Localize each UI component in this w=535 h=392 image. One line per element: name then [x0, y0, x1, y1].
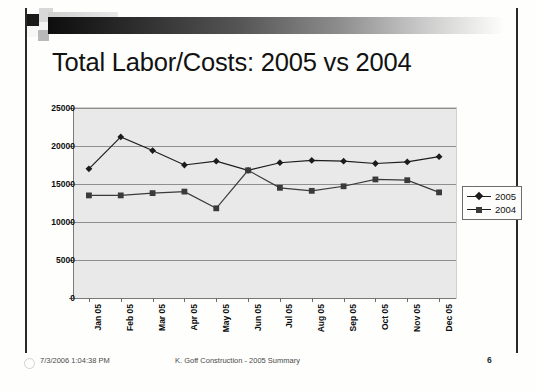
footer-timestamp: 7/3/2006 1:04:38 PM — [40, 356, 110, 365]
x-axis-tick — [344, 298, 345, 302]
legend-item-2004[interactable]: 2004 — [466, 203, 516, 216]
data-point-2005-Nov 05 — [404, 159, 411, 166]
x-axis-tick-label: Jan 05 — [93, 304, 103, 330]
x-axis-tick — [184, 298, 185, 302]
square-marker-icon — [466, 203, 492, 216]
y-axis-tick-label: 20000 — [51, 141, 75, 151]
data-point-2005-Sep 05 — [340, 158, 347, 165]
x-axis-tick — [439, 298, 440, 302]
data-point-2004-Jul 05 — [277, 185, 283, 191]
left-border-rule — [25, 8, 27, 353]
legend-label-2004: 2004 — [492, 204, 516, 215]
x-axis-tick-label: Mar 05 — [157, 304, 167, 331]
data-point-2004-Apr 05 — [182, 189, 188, 195]
x-axis-tick-label: Sep 05 — [348, 304, 358, 331]
data-point-2004-Mar 05 — [150, 190, 156, 196]
x-axis-tick-label: Nov 05 — [412, 304, 422, 332]
data-point-2004-Jan 05 — [86, 193, 92, 199]
x-axis-tick — [407, 298, 408, 302]
x-axis-tick-label: Jun 05 — [253, 304, 263, 331]
footer-page-number: 6 — [487, 355, 492, 365]
slide-canvas: Total Labor/Costs: 2005 vs 2004 05000100… — [0, 0, 535, 392]
data-point-2004-Aug 05 — [309, 188, 315, 194]
data-point-2005-Aug 05 — [308, 157, 315, 164]
x-axis-tick — [375, 298, 376, 302]
data-point-2004-May 05 — [213, 205, 219, 211]
data-point-2005-Jul 05 — [277, 159, 284, 166]
y-axis-tick-label: 25000 — [51, 103, 75, 113]
data-point-2005-Mar 05 — [149, 147, 156, 154]
slide-footer: 7/3/2006 1:04:38 PM K. Goff Construction… — [0, 356, 535, 372]
x-axis-tick-label: Apr 05 — [189, 304, 199, 330]
data-point-2004-Feb 05 — [118, 193, 124, 199]
data-point-2005-Apr 05 — [181, 162, 188, 169]
chart-container: 0500010000150002000025000 Jan 05Feb 05Ma… — [29, 97, 507, 347]
legend-item-2005[interactable]: 2005 — [466, 190, 516, 203]
series-line-2005 — [89, 137, 439, 170]
legend-label-2005: 2005 — [492, 191, 516, 202]
decorative-gradient-bar — [48, 17, 503, 34]
data-point-2005-Oct 05 — [372, 160, 379, 167]
data-point-2004-Sep 05 — [341, 183, 347, 189]
x-axis-tick — [280, 298, 281, 302]
x-axis-tick — [248, 298, 249, 302]
x-axis-tick-label: Dec 05 — [444, 304, 454, 331]
x-axis-tick — [89, 298, 90, 302]
motif-square-dark — [27, 14, 39, 26]
motif-square-white — [27, 26, 38, 37]
x-axis-tick-label: Aug 05 — [316, 304, 326, 332]
data-point-2004-Jun 05 — [245, 167, 251, 173]
x-axis-tick-label: Feb 05 — [125, 304, 135, 331]
x-axis-tick — [216, 298, 217, 302]
data-point-2005-May 05 — [213, 158, 220, 165]
x-axis-tick-label: Jul 05 — [284, 304, 294, 328]
y-axis-tick-label: 15000 — [51, 179, 75, 189]
data-point-2004-Nov 05 — [404, 177, 410, 183]
footer-caption: K. Goff Construction - 2005 Summary — [175, 356, 300, 365]
chart-legend: 2005 2004 — [462, 186, 522, 220]
x-axis-tick — [153, 298, 154, 302]
x-axis-tick-label: May 05 — [221, 304, 231, 332]
series-line-2004 — [89, 170, 439, 208]
data-point-2004-Oct 05 — [373, 177, 379, 183]
page-title: Total Labor/Costs: 2005 vs 2004 — [52, 48, 492, 77]
plot-right-edge — [456, 107, 457, 299]
series-plot-layer — [73, 108, 455, 298]
y-axis-tick-label: 10000 — [51, 217, 75, 227]
right-border-rule — [516, 8, 518, 353]
data-point-2005-Dec 05 — [436, 153, 443, 160]
x-axis-tick — [121, 298, 122, 302]
diamond-marker-icon — [466, 190, 492, 203]
x-axis-tick — [312, 298, 313, 302]
data-point-2004-Dec 05 — [436, 189, 442, 195]
x-axis-tick-label: Oct 05 — [380, 304, 390, 330]
footer-artifact-icon — [24, 358, 35, 369]
